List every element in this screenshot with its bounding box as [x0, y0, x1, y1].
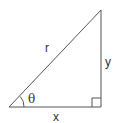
- right-angle-marker: [92, 98, 101, 107]
- hypotenuse-line: [9, 10, 101, 107]
- triangle: [9, 10, 101, 107]
- adjacent-label: x: [53, 110, 59, 123]
- opposite-label: y: [105, 55, 111, 69]
- right-triangle-diagram: r y θ x: [0, 0, 120, 123]
- hypotenuse-label: r: [45, 41, 49, 55]
- angle-label: θ: [28, 92, 35, 106]
- angle-arc: [20, 97, 24, 108]
